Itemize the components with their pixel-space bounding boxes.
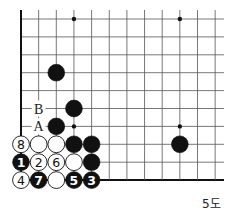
move-number-6: 6 (52, 155, 60, 170)
move-number-3: 3 (87, 173, 96, 188)
star-point (72, 124, 76, 128)
marker-a: A (34, 119, 45, 134)
go-board-diagram: BA81264753 (0, 0, 237, 217)
star-point (178, 124, 182, 128)
move-number-5: 5 (70, 173, 79, 188)
black-stone (83, 136, 100, 153)
white-stone (66, 154, 83, 171)
star-point (72, 17, 76, 21)
black-stone (66, 100, 83, 117)
white-stone (48, 172, 65, 189)
move-number-8: 8 (17, 137, 25, 152)
black-stone (66, 136, 83, 153)
move-number-1: 1 (17, 155, 26, 170)
black-stone (171, 136, 188, 153)
move-number-7: 7 (34, 173, 43, 188)
move-number-4: 4 (17, 173, 25, 188)
black-stone (48, 64, 65, 81)
black-stone (48, 118, 65, 135)
move-number-2: 2 (35, 155, 43, 170)
white-stone (30, 136, 47, 153)
black-stone (83, 154, 100, 171)
diagram-caption: 5도 (202, 194, 221, 211)
marker-b: B (34, 102, 43, 117)
white-stone (48, 136, 65, 153)
star-point (178, 17, 182, 21)
